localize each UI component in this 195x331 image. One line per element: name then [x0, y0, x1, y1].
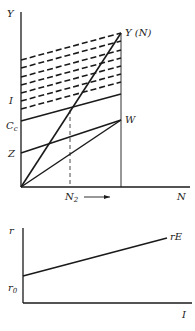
top-x-axis-label: N [176, 191, 187, 202]
y-n-label: Y (N) [125, 27, 151, 38]
i-label: I [8, 95, 14, 106]
re-line [23, 238, 167, 276]
top-diagram [21, 12, 190, 199]
bottom-y-axis-label: r [9, 225, 15, 236]
production-curve-y-n [21, 33, 121, 187]
arrow-head-icon [104, 195, 110, 199]
w-label: W [125, 114, 136, 125]
diagram-canvas: Y Y (N) I Cc W Z N2 N r rE r0 I [0, 0, 195, 331]
z-label: Z [7, 148, 16, 159]
re-label: rE [170, 231, 183, 242]
bottom-x-axis-label: I [181, 309, 187, 320]
n2-label: N2 [64, 191, 79, 204]
cc-line [21, 94, 121, 121]
bottom-diagram [23, 228, 192, 303]
z-w-line [21, 120, 121, 153]
cc-label: Cc [6, 120, 18, 133]
r0-label: r0 [8, 282, 18, 295]
top-y-axis-label: Y [7, 8, 15, 19]
origin-w-line [21, 120, 121, 187]
